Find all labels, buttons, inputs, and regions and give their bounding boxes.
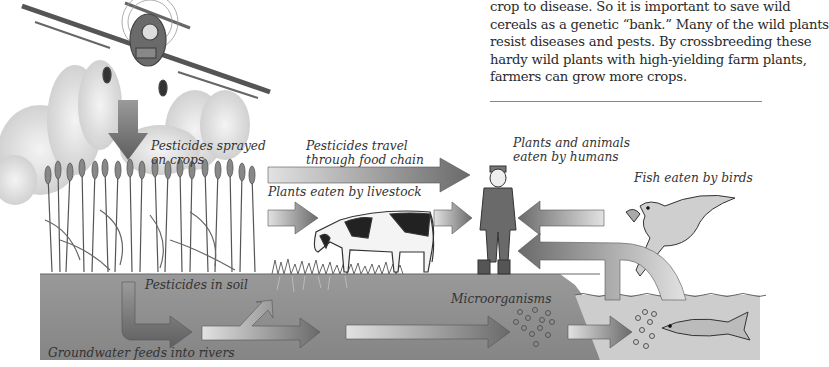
arrow-cow-to-human <box>434 202 472 234</box>
label-pesticides-sprayed: Pesticides sprayed on crops <box>151 140 266 167</box>
paragraph-line: resist diseases and pests. By crossbreed… <box>490 33 762 51</box>
label-line: on crops <box>151 154 266 168</box>
label-line: Pesticides travel <box>306 140 424 154</box>
body-paragraph: crop to disease. So it is important to s… <box>490 0 762 86</box>
arrow-plants-to-cow <box>268 202 318 234</box>
farmer <box>478 166 516 274</box>
label-pesticides-travel: Pesticides travel through food chain <box>306 140 424 167</box>
label-microorganisms: Microorganisms <box>451 293 551 307</box>
label-eaten-by-humans: Plants and animals eaten by humans <box>513 137 630 164</box>
label-fish-eaten-by-birds: Fish eaten by birds <box>634 172 753 186</box>
label-plants-eaten-by-livestock: Plants eaten by livestock <box>268 186 422 200</box>
cow <box>314 211 433 272</box>
wheat-crop <box>45 159 255 272</box>
label-line: Pesticides sprayed <box>151 140 266 154</box>
label-pesticides-in-soil: Pesticides in soil <box>145 279 248 293</box>
paragraph-line: cereals as a genetic “bank.” Many of the… <box>490 16 762 34</box>
label-line: eaten by humans <box>513 151 630 165</box>
arrow-bird-to-human <box>518 201 604 235</box>
label-groundwater: Groundwater feeds into rivers <box>48 347 235 361</box>
paragraph-line: crop to disease. So it is important to s… <box>490 0 762 16</box>
section-divider <box>490 101 762 102</box>
paragraph-line: hardy wild plants with high-yielding far… <box>490 51 762 69</box>
paragraph-line: farmers can grow more crops. <box>490 68 762 86</box>
label-line: Plants and animals <box>513 137 630 151</box>
label-line: through food chain <box>306 154 424 168</box>
